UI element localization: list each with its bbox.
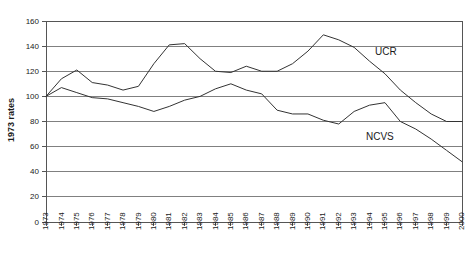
series-line-ncvs <box>46 84 462 162</box>
y-tick-label-60: 60 <box>30 142 39 151</box>
x-tick-label-1996: 1996 <box>395 212 404 230</box>
series-lines <box>46 35 462 162</box>
series-label-ncvs: NCVS <box>366 131 394 142</box>
x-tick-label-1990: 1990 <box>303 212 312 230</box>
x-tick-label-1995: 1995 <box>380 212 389 230</box>
x-tick-label-1981: 1981 <box>164 212 173 230</box>
x-tick-label-1982: 1982 <box>180 212 189 230</box>
gridlines <box>46 21 462 222</box>
x-tick-label-1997: 1997 <box>411 212 420 230</box>
y-tick-label-0: 0 <box>35 218 40 227</box>
x-tick-label-1988: 1988 <box>272 212 281 230</box>
x-tick-label-2000: 2000 <box>457 212 466 230</box>
x-axis: 1973197419751976197719781979198019811982… <box>41 212 466 230</box>
y-tick-label-20: 20 <box>30 192 39 201</box>
y-tick-label-120: 120 <box>26 67 40 76</box>
x-tick-label-1975: 1975 <box>72 212 81 230</box>
x-tick-label-1976: 1976 <box>87 212 96 230</box>
x-tick-label-1989: 1989 <box>288 212 297 230</box>
x-tick-label-1999: 1999 <box>442 212 451 230</box>
y-tick-label-80: 80 <box>30 117 39 126</box>
x-tick-label-1979: 1979 <box>134 212 143 230</box>
x-tick-label-1992: 1992 <box>334 212 343 230</box>
chart-container: 020406080100120140160 197319741975197619… <box>0 0 473 264</box>
x-tick-label-1977: 1977 <box>103 212 112 230</box>
x-tick-label-1985: 1985 <box>226 212 235 230</box>
x-tick-label-1998: 1998 <box>426 212 435 230</box>
series-annotations: UCRNCVS <box>366 46 397 142</box>
x-tick-label-1980: 1980 <box>149 212 158 230</box>
x-tick-label-1994: 1994 <box>365 212 374 230</box>
y-tick-label-100: 100 <box>26 92 40 101</box>
x-tick-label-1987: 1987 <box>257 212 266 230</box>
y-tick-label-140: 140 <box>26 42 40 51</box>
x-tick-label-1986: 1986 <box>241 212 250 230</box>
x-tick-label-1983: 1983 <box>195 212 204 230</box>
x-tick-label-1974: 1974 <box>57 212 66 230</box>
x-tick-label-1978: 1978 <box>118 212 127 230</box>
y-tick-label-160: 160 <box>26 17 40 26</box>
y-tick-label-40: 40 <box>30 167 39 176</box>
line-chart: 020406080100120140160 197319741975197619… <box>0 0 473 264</box>
x-tick-label-1993: 1993 <box>349 212 358 230</box>
x-tick-label-1984: 1984 <box>211 212 220 230</box>
x-tick-label-1991: 1991 <box>318 212 327 230</box>
y-axis-title: 1973 rates <box>6 98 16 142</box>
series-label-ucr: UCR <box>375 46 397 57</box>
series-line-ucr <box>46 35 462 122</box>
x-tick-label-1973: 1973 <box>41 212 50 230</box>
